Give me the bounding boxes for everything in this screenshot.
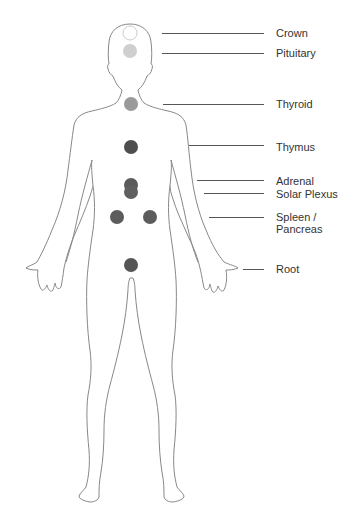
crown-leader-line (162, 33, 264, 34)
thymus-chakra-dot (124, 140, 138, 154)
solar-plexus-label: Solar Plexus (276, 188, 338, 200)
thyroid-label: Thyroid (276, 98, 313, 110)
pituitary-leader-line (162, 53, 264, 54)
root-label: Root (276, 263, 299, 275)
adrenal-leader-line (197, 180, 264, 181)
thyroid-leader-line (163, 104, 264, 105)
spleen-leader-line (209, 217, 264, 218)
pituitary-label: Pituitary (276, 47, 316, 59)
solar-plexus-leader-line (204, 193, 264, 194)
chakra-points (110, 26, 157, 272)
root-chakra-dot (124, 258, 138, 272)
root-leader-line (243, 269, 264, 270)
solar-plexus-chakra-dot (124, 185, 138, 199)
pituitary-chakra-dot (123, 44, 137, 58)
thymus-label: Thymus (276, 141, 315, 153)
crown-label: Crown (276, 27, 308, 39)
thyroid-chakra-dot (124, 97, 138, 111)
spleen-label: Spleen / (276, 211, 316, 223)
pancreas-right-chakra-dot (143, 210, 157, 224)
spleen-left-chakra-dot (110, 210, 124, 224)
body-figure (0, 0, 354, 525)
adrenal-label: Adrenal (276, 175, 314, 187)
thymus-leader-line (189, 145, 264, 146)
pancreas-label: Pancreas (276, 223, 322, 235)
crown-chakra-dot (123, 26, 137, 40)
